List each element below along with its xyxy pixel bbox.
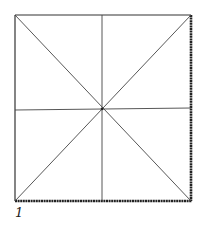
figure-label: 1 — [15, 205, 23, 220]
center-point — [101, 108, 104, 111]
square-diagram — [0, 0, 207, 234]
